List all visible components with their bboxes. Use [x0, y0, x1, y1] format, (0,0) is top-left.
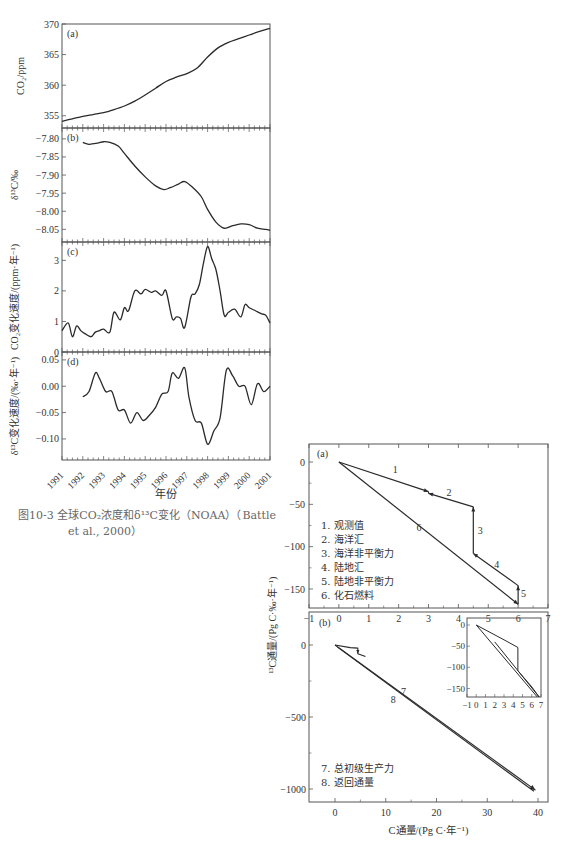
- svg-text:370: 370: [44, 19, 59, 30]
- figure-caption: 图10-3 全球CO₂浓度和δ¹³C变化（NOAA）（Battle et al.…: [18, 508, 288, 540]
- svg-text:0: 0: [461, 620, 466, 630]
- svg-text:−150: −150: [284, 584, 305, 595]
- svg-text:−7.90: −7.90: [36, 170, 59, 181]
- svg-text:2: 2: [446, 487, 451, 498]
- svg-text:1: 1: [393, 464, 398, 475]
- svg-text:−1: −1: [462, 700, 472, 710]
- svg-text:0.00: 0.00: [42, 381, 60, 392]
- svg-text:0: 0: [474, 700, 479, 710]
- svg-text:2001: 2001: [253, 470, 274, 491]
- svg-text:5: 5: [520, 700, 525, 710]
- svg-text:−8.00: −8.00: [36, 206, 59, 217]
- svg-text:355: 355: [44, 110, 59, 121]
- svg-text:年份: 年份: [155, 487, 177, 500]
- svg-text:2000: 2000: [232, 470, 253, 491]
- svg-text:7: 7: [539, 700, 544, 710]
- svg-text:2: 2: [54, 285, 59, 296]
- svg-text:1998: 1998: [191, 470, 212, 491]
- svg-text:3. 海洋非平衡力: 3. 海洋非平衡力: [321, 547, 394, 559]
- svg-text:(a): (a): [317, 448, 328, 460]
- svg-text:0: 0: [301, 640, 306, 651]
- svg-text:−50: −50: [451, 641, 466, 651]
- panel-left-d: 0.050.00−0.05−0.10(d)δ¹³C变化速度/(‰·年⁻¹): [8, 352, 270, 460]
- panel-left-b: −7.80−7.85−7.90−7.95−8.00−8.05(b)δ¹³C/‰: [9, 128, 270, 242]
- right-y-axis-label: ¹³C通量/(Pg C·‰·年⁻¹): [266, 577, 279, 674]
- svg-text:40: 40: [533, 807, 543, 818]
- svg-text:CO₂变化速度/(ppm·年⁻¹): CO₂变化速度/(ppm·年⁻¹): [8, 244, 21, 350]
- svg-text:1994: 1994: [107, 470, 128, 491]
- svg-text:¹³C通量/(Pg C·‰·年⁻¹): ¹³C通量/(Pg C·‰·年⁻¹): [266, 577, 279, 674]
- caption-line-2: et al., 2000）: [18, 524, 288, 540]
- left-x-axis-labels: 1991199219931994199519961997199819992000…: [45, 470, 274, 500]
- svg-text:−7.95: −7.95: [36, 188, 59, 199]
- svg-text:7: 7: [401, 686, 406, 697]
- svg-text:5. 陆地非平衡力: 5. 陆地非平衡力: [321, 575, 394, 587]
- svg-text:6: 6: [417, 522, 422, 533]
- svg-text:(c): (c): [67, 246, 78, 258]
- svg-text:6: 6: [530, 700, 535, 710]
- svg-text:CO₂/ppm: CO₂/ppm: [15, 57, 26, 95]
- svg-text:1: 1: [54, 316, 59, 327]
- svg-text:2: 2: [396, 613, 401, 624]
- svg-text:−1000: −1000: [280, 784, 306, 795]
- svg-text:−100: −100: [284, 541, 305, 552]
- figure-canvas: 355360365370(a)CO₂/ppm−7.80−7.85−7.90−7.…: [0, 0, 564, 847]
- svg-text:1992: 1992: [66, 470, 87, 491]
- svg-text:1. 观测值: 1. 观测值: [321, 519, 364, 531]
- svg-text:δ¹³C/‰: δ¹³C/‰: [9, 170, 20, 200]
- svg-text:1995: 1995: [128, 470, 149, 491]
- svg-text:6. 化石燃料: 6. 化石燃料: [321, 589, 374, 601]
- inset-right-b: −1012345670−50−100−150: [446, 618, 543, 710]
- svg-text:8. 返回通量: 8. 返回通量: [321, 777, 374, 788]
- svg-text:0: 0: [336, 613, 341, 624]
- svg-text:4. 陆地汇: 4. 陆地汇: [321, 561, 364, 573]
- svg-text:0: 0: [333, 807, 338, 818]
- svg-text:1991: 1991: [45, 470, 66, 491]
- svg-text:1: 1: [366, 613, 371, 624]
- svg-text:−150: −150: [446, 684, 465, 694]
- panel-left-c: 0123(c)CO₂变化速度/(ppm·年⁻¹): [8, 242, 270, 358]
- svg-text:(a): (a): [67, 28, 78, 40]
- svg-text:1: 1: [483, 700, 488, 710]
- svg-text:−0.10: −0.10: [36, 433, 59, 444]
- svg-text:δ¹³C变化速度/(‰·年⁻¹): δ¹³C变化速度/(‰·年⁻¹): [8, 357, 21, 455]
- panel-right-a: −1012345670−50−100−150(a)1234561. 观测值2. …: [284, 444, 550, 624]
- svg-text:365: 365: [44, 49, 59, 60]
- svg-text:C通量/(Pg C·年⁻¹): C通量/(Pg C·年⁻¹): [389, 824, 469, 837]
- svg-text:(d): (d): [67, 356, 79, 368]
- svg-text:(b): (b): [67, 132, 79, 144]
- svg-text:0.05: 0.05: [42, 354, 60, 365]
- svg-text:−8.05: −8.05: [36, 224, 59, 235]
- svg-text:1999: 1999: [211, 470, 232, 491]
- svg-text:−7.85: −7.85: [36, 151, 59, 162]
- svg-text:3: 3: [54, 255, 59, 266]
- svg-text:4: 4: [494, 559, 499, 570]
- svg-text:−0.05: −0.05: [36, 407, 59, 418]
- caption-line-1: 图10-3 全球CO₂浓度和δ¹³C变化（NOAA）（Battle: [18, 509, 276, 522]
- svg-text:2. 海洋汇: 2. 海洋汇: [321, 533, 364, 545]
- svg-text:−7.80: −7.80: [36, 133, 59, 144]
- svg-text:0: 0: [300, 457, 305, 468]
- panel-left-a: 355360365370(a)CO₂/ppm: [15, 19, 270, 129]
- svg-text:5: 5: [521, 588, 526, 599]
- svg-text:3: 3: [502, 700, 507, 710]
- svg-text:(b): (b): [319, 617, 331, 629]
- svg-text:−50: −50: [289, 499, 305, 510]
- svg-text:7. 总初级生产力: 7. 总初级生产力: [321, 762, 394, 774]
- svg-text:4: 4: [511, 700, 516, 710]
- svg-text:10: 10: [381, 807, 391, 818]
- panel-right-b: 0102030400−500−1000(b)787. 总初级生产力8. 返回通量…: [280, 612, 548, 837]
- svg-text:20: 20: [432, 807, 442, 818]
- svg-text:2: 2: [493, 700, 498, 710]
- svg-text:−100: −100: [446, 662, 465, 672]
- svg-text:30: 30: [482, 807, 492, 818]
- svg-text:3: 3: [426, 613, 431, 624]
- svg-text:8: 8: [391, 694, 396, 705]
- svg-text:3: 3: [478, 525, 483, 536]
- svg-text:1993: 1993: [87, 470, 108, 491]
- svg-text:360: 360: [44, 80, 59, 91]
- svg-text:−500: −500: [285, 712, 306, 723]
